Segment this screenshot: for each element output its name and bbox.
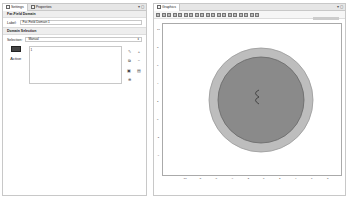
render-icon[interactable] [228,13,232,17]
scale-indicator [313,17,339,20]
chevron-down-icon: ⇕ [137,38,140,41]
selection-tools: ✎ + ⧉ − ▣ ▤ ⊕ [126,46,142,84]
settings-panel: Settings Properties ▾ ◻ Far-Field Domain… [2,3,147,196]
paste-icon[interactable]: ▣ [126,68,132,75]
label-field-label: Label: [7,21,17,25]
point-icon[interactable] [211,13,215,17]
tab-settings[interactable]: Settings [3,4,28,11]
graphics-icon [157,5,161,9]
zoom-selection-icon[interactable]: ⊕ [126,77,132,84]
window-controls[interactable]: ▾ ◻ [138,5,144,9]
grid-icon[interactable] [222,13,226,17]
panel-tabbar: Settings Properties ▾ ◻ [3,4,146,11]
domain-icon[interactable] [200,13,204,17]
section-domain-selection[interactable]: Domain Selection [3,27,146,35]
wireframe-icon[interactable] [217,13,221,17]
graphics-canvas[interactable]: 10 8 6 4 2 0 -2 -4 -10 -8 -6 -4 -2 0 2 4… [162,23,342,176]
light-icon[interactable] [233,13,237,17]
tab-properties[interactable]: Properties [28,4,55,11]
list-item[interactable]: 1 [31,48,120,52]
graphics-tabbar: Graphics ▾ ◻ [154,4,345,11]
boundary-icon[interactable] [206,13,210,17]
copy-icon[interactable]: ⧉ [126,58,132,65]
selection-list[interactable]: 1 [29,46,122,84]
window-controls[interactable]: ▾ ◻ [337,5,343,9]
tab-graphics[interactable]: Graphics [154,4,180,11]
active-toggle-button[interactable] [11,46,21,52]
settings-icon [6,5,10,9]
page-title: Far-Field Domain [3,11,146,18]
axis-icon[interactable] [244,13,248,17]
zoom-in-icon[interactable] [156,13,160,17]
geometry-drawing [163,24,343,177]
plus-icon[interactable]: + [136,49,142,56]
snapshot-icon[interactable] [250,13,254,17]
move-icon[interactable] [195,13,199,17]
active-label: Active [10,56,21,61]
minus-icon[interactable]: − [136,58,142,65]
pencil-icon[interactable]: ✎ [126,49,132,56]
print-icon[interactable] [255,13,259,17]
clear-icon[interactable]: ▤ [136,68,142,75]
zoom-out-icon[interactable] [162,13,166,17]
transparency-icon[interactable] [178,13,182,17]
zoom-extents-icon[interactable] [173,13,177,17]
selection-label: Selection: [7,38,22,42]
label-input[interactable]: Far-Field Domain 1 [20,20,142,25]
properties-icon [31,5,35,9]
selection-dropdown[interactable]: Manual⇕ [25,37,142,42]
rotate-icon[interactable] [189,13,193,17]
zoom-box-icon[interactable] [167,13,171,17]
graphics-panel: Graphics ▾ ◻ 10 8 6 4 2 0 -2 -4 -10 -8 -… [153,3,346,196]
select-icon[interactable] [184,13,188,17]
view-icon[interactable] [239,13,243,17]
